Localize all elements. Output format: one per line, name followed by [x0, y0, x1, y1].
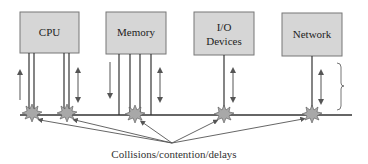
caption: Collisions/contention/delays — [111, 148, 236, 160]
cpu-box: CPU — [20, 12, 79, 53]
io-devices-box: I/O Devices — [194, 12, 254, 55]
collision-pointer-arrows — [40, 119, 303, 143]
io-label-line1: I/O — [217, 21, 232, 33]
network-label: Network — [293, 28, 332, 40]
cpu-connections — [29, 53, 69, 112]
brace-icon — [337, 63, 344, 110]
memory-label: Memory — [117, 26, 155, 38]
collision-burst-icon — [125, 105, 145, 123]
collision-burst-icon — [302, 105, 322, 123]
network-box: Network — [282, 13, 342, 56]
collision-burst-icon — [214, 105, 234, 123]
cpu-label: CPU — [39, 26, 60, 38]
memory-box: Memory — [106, 12, 166, 54]
shared-bus-diagram: CPU Memory I/O Devices Network — [0, 0, 368, 164]
io-label-line2: Devices — [206, 35, 241, 47]
collision-burst-icon — [22, 104, 42, 122]
collision-burst-icon — [57, 104, 77, 122]
